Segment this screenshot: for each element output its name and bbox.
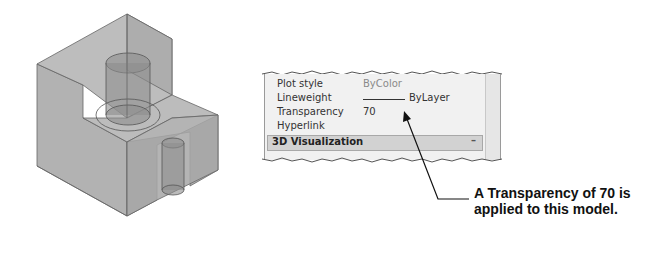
property-label: Lineweight xyxy=(277,92,332,103)
scrollbar[interactable] xyxy=(485,74,500,160)
property-value[interactable]: ByColor xyxy=(363,78,402,89)
properties-panel: Plot style ByColor Lineweight ByLayer Tr… xyxy=(264,74,501,160)
property-label: Plot style xyxy=(277,78,323,89)
property-row-hyperlink[interactable]: Hyperlink xyxy=(277,120,477,134)
section-3d-visualization[interactable]: 3D Visualization – xyxy=(267,135,483,151)
property-label: Hyperlink xyxy=(277,120,325,131)
section-title: 3D Visualization xyxy=(272,136,363,147)
property-row-plot-style[interactable]: Plot style ByColor xyxy=(277,78,477,92)
property-label: Transparency xyxy=(277,106,344,117)
lineweight-sample-line xyxy=(363,99,405,100)
property-value[interactable]: 70 xyxy=(363,106,376,117)
property-row-lineweight[interactable]: Lineweight ByLayer xyxy=(277,92,477,106)
collapse-icon[interactable]: – xyxy=(471,135,476,146)
property-row-transparency[interactable]: Transparency 70 xyxy=(277,106,477,120)
torn-edge-bottom xyxy=(262,157,502,163)
transparent-3d-model xyxy=(0,0,240,262)
property-value[interactable]: ByLayer xyxy=(409,92,450,103)
callout-text: A Transparency of 70 is applied to this … xyxy=(474,185,644,217)
